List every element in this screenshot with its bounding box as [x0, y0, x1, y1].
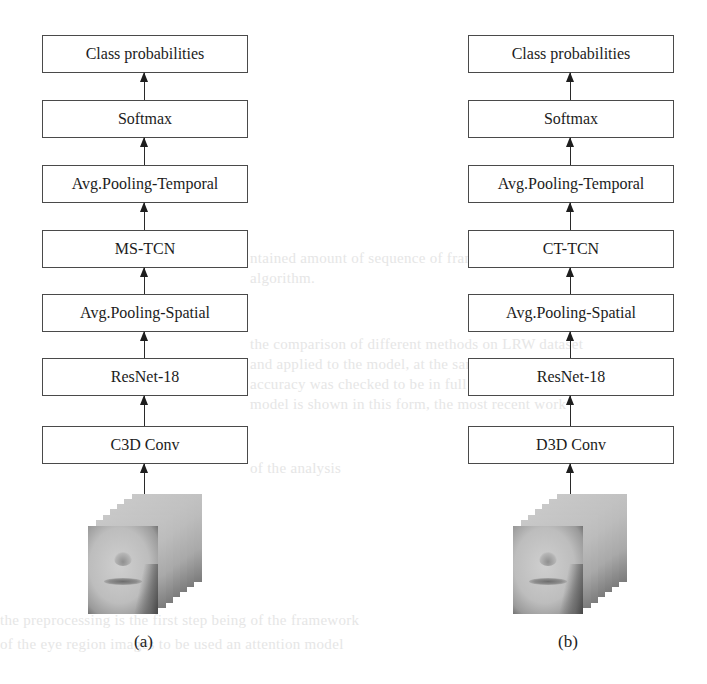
- layer-label: Avg.Pooling-Temporal: [72, 175, 219, 193]
- layer-label: Avg.Pooling-Spatial: [80, 304, 210, 322]
- nose-region: [114, 552, 132, 566]
- input-face-frames-b: [513, 494, 633, 619]
- arrow-up-icon: [570, 138, 571, 165]
- layer-label: Class probabilities: [86, 45, 205, 63]
- layer-label: C3D Conv: [111, 436, 180, 454]
- layer-class-probabilities: Class probabilities: [468, 35, 674, 73]
- layer-resnet-18: ResNet-18: [468, 358, 674, 396]
- nose-region: [539, 552, 557, 566]
- arrow-up-icon: [570, 396, 571, 426]
- arrow-up-icon: [570, 203, 571, 230]
- panel-a-caption: (a): [134, 632, 153, 652]
- layer-class-probabilities: Class probabilities: [42, 35, 248, 73]
- layer-label: MS-TCN: [115, 240, 175, 258]
- layer-label: ResNet-18: [537, 368, 605, 386]
- layer-label: D3D Conv: [536, 436, 606, 454]
- arrow-up-icon: [144, 73, 145, 100]
- arrow-up-icon: [570, 464, 571, 498]
- layer-avg-pooling-spatial: Avg.Pooling-Spatial: [42, 294, 248, 332]
- layer-avg-pooling-temporal: Avg.Pooling-Temporal: [42, 165, 248, 203]
- layer-label: ResNet-18: [111, 368, 179, 386]
- input-face-frames-a: [88, 494, 208, 619]
- bleed-through-text: of the eye region images to be used an a…: [0, 636, 344, 653]
- layer-d3d-conv: D3D Conv: [468, 426, 674, 464]
- arrow-up-icon: [570, 73, 571, 100]
- bleed-through-text: model is shown in this form, the most re…: [250, 396, 566, 413]
- layer-avg-pooling-temporal: Avg.Pooling-Temporal: [468, 165, 674, 203]
- bleed-through-text: of the analysis: [250, 460, 341, 477]
- layer-ct-tcn: CT-TCN: [468, 230, 674, 268]
- arrow-up-icon: [144, 396, 145, 426]
- layer-label: Softmax: [118, 110, 172, 128]
- arrow-up-icon: [144, 203, 145, 230]
- layer-softmax: Softmax: [468, 100, 674, 138]
- mouth-region: [529, 578, 567, 585]
- mouth-region: [104, 578, 142, 585]
- layer-resnet-18: ResNet-18: [42, 358, 248, 396]
- layer-label: Avg.Pooling-Spatial: [506, 304, 636, 322]
- layer-ms-tcn: MS-TCN: [42, 230, 248, 268]
- layer-avg-pooling-spatial: Avg.Pooling-Spatial: [468, 294, 674, 332]
- jaw-shadow: [132, 564, 158, 614]
- layer-label: Softmax: [544, 110, 598, 128]
- layer-label: CT-TCN: [543, 240, 599, 258]
- arrow-up-icon: [144, 464, 145, 498]
- face-image: [88, 526, 158, 614]
- bleed-through-text: algorithm.: [250, 270, 315, 287]
- arrow-up-icon: [144, 138, 145, 165]
- layer-c3d-conv: C3D Conv: [42, 426, 248, 464]
- face-image: [513, 526, 583, 614]
- panel-b-caption: (b): [558, 632, 578, 652]
- jaw-shadow: [557, 564, 583, 614]
- arrow-up-icon: [570, 332, 571, 358]
- arrow-up-icon: [144, 332, 145, 358]
- bleed-through-text: the comparison of different methods on L…: [250, 336, 583, 353]
- layer-label: Avg.Pooling-Temporal: [498, 175, 645, 193]
- layer-label: Class probabilities: [512, 45, 631, 63]
- layer-softmax: Softmax: [42, 100, 248, 138]
- arrow-up-icon: [570, 268, 571, 294]
- arrow-up-icon: [144, 268, 145, 294]
